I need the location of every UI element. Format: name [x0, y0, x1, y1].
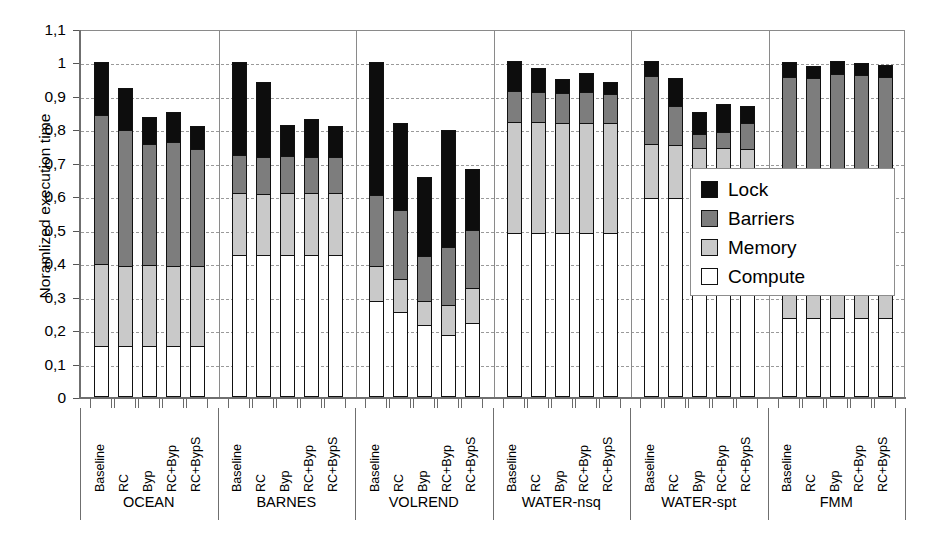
group-separator: [356, 31, 357, 397]
bar-segment-lock: [644, 61, 659, 75]
group-label: WATER-nsq: [493, 494, 631, 510]
bar-segment-compute: [142, 346, 157, 397]
x-tick-mark: [90, 399, 91, 408]
bar-segment-barriers: [716, 132, 731, 148]
bar-ocean-baseline[interactable]: [94, 62, 109, 397]
bar-water-nsq-rc-byp[interactable]: [579, 73, 594, 397]
bar-ocean-rc-byp[interactable]: [166, 112, 181, 397]
bar-segment-barriers: [531, 92, 546, 123]
x-tick-mark: [736, 399, 737, 408]
x-tick-mark: [874, 399, 875, 408]
bar-water-nsq-rc[interactable]: [531, 68, 546, 397]
bar-segment-lock: [328, 126, 343, 157]
group-separator: [494, 31, 495, 397]
bar-segment-barriers: [465, 230, 480, 288]
bar-segment-lock: [507, 61, 522, 91]
bar-segment-compute: [369, 301, 384, 397]
bar-segment-compute: [668, 198, 683, 397]
x-tick-mark: [207, 399, 208, 408]
bar-segment-compute: [166, 346, 181, 397]
x-tick-mark: [273, 399, 274, 408]
x-tick-mark: [410, 399, 411, 408]
x-tick-mark: [413, 399, 414, 408]
bar-water-spt-rc[interactable]: [668, 78, 683, 397]
bar-segment-barriers: [118, 130, 133, 266]
y-tick-label: 0,3: [20, 290, 66, 305]
bar-volrend-baseline[interactable]: [369, 62, 384, 397]
group-label: BARNES: [218, 494, 356, 510]
x-tick-label: Byp: [279, 470, 291, 492]
bar-barnes-baseline[interactable]: [232, 62, 247, 397]
bar-volrend-rc[interactable]: [393, 123, 408, 397]
bar-barnes-rc-byp[interactable]: [304, 119, 319, 397]
bar-water-nsq-rc-byps[interactable]: [603, 82, 618, 397]
bar-segment-lock: [280, 125, 295, 156]
bar-segment-lock: [555, 79, 570, 92]
x-tick-mark: [114, 399, 115, 408]
legend-swatch-barriers: [701, 210, 718, 227]
bar-volrend-rc-byp[interactable]: [441, 130, 456, 397]
bar-segment-memory: [417, 301, 432, 325]
bar-volrend-byp[interactable]: [417, 177, 432, 397]
bar-water-nsq-byp[interactable]: [555, 79, 570, 397]
bar-segment-compute: [579, 233, 594, 397]
bar-ocean-rc[interactable]: [118, 88, 133, 397]
bar-segment-lock: [782, 62, 797, 76]
bar-segment-memory: [328, 193, 343, 255]
bar-segment-barriers: [740, 123, 755, 149]
x-tick-label: Baseline: [506, 444, 518, 492]
x-tick-mark: [575, 399, 576, 408]
bar-segment-memory: [555, 123, 570, 233]
x-tick-mark: [159, 399, 160, 408]
bar-segment-compute: [531, 233, 546, 397]
bar-water-spt-baseline[interactable]: [644, 61, 659, 397]
bar-segment-memory: [190, 266, 205, 346]
x-tick-mark: [183, 399, 184, 408]
bar-segment-barriers: [507, 91, 522, 122]
bar-segment-memory: [232, 193, 247, 256]
bar-segment-lock: [118, 88, 133, 130]
bar-segment-compute: [555, 233, 570, 397]
legend-swatch-memory: [701, 239, 718, 256]
x-tick-mark: [186, 399, 187, 408]
x-tick-mark: [712, 399, 713, 408]
x-tick-label: RC+Byp: [166, 445, 178, 492]
bar-segment-lock: [830, 61, 845, 73]
legend-label: Barriers: [728, 209, 795, 228]
bar-ocean-byp[interactable]: [142, 117, 157, 397]
bar-segment-compute: [256, 255, 271, 397]
bar-segment-lock: [256, 82, 271, 157]
bar-water-nsq-baseline[interactable]: [507, 61, 522, 397]
bar-segment-compute: [878, 318, 893, 397]
x-tick-mark: [297, 399, 298, 408]
bar-segment-lock: [806, 66, 821, 78]
bar-segment-compute: [441, 335, 456, 397]
bar-barnes-byp[interactable]: [280, 125, 295, 397]
y-tick-label: 0,9: [20, 89, 66, 104]
bar-segment-barriers: [304, 157, 319, 193]
bar-segment-memory: [603, 123, 618, 232]
bar-volrend-rc-byps[interactable]: [465, 169, 480, 397]
bar-segment-lock: [692, 112, 707, 134]
bar-segment-compute: [417, 325, 432, 397]
group-box-divider: [80, 408, 81, 520]
bar-ocean-rc-byps[interactable]: [190, 126, 205, 397]
x-tick-mark: [847, 399, 848, 408]
x-tick-label: Byp: [417, 470, 429, 492]
bar-segment-memory: [280, 193, 295, 255]
group-label: VOLREND: [355, 494, 493, 510]
x-tick-label: Baseline: [231, 444, 243, 492]
x-tick-label: RC: [393, 474, 405, 492]
legend-swatch-lock: [701, 181, 718, 198]
group-box-divider: [630, 408, 631, 520]
bar-barnes-rc[interactable]: [256, 82, 271, 397]
bar-segment-barriers: [603, 94, 618, 124]
x-tick-label: RC+BypS: [190, 437, 202, 492]
bar-barnes-rc-byps[interactable]: [328, 126, 343, 397]
bar-segment-compute: [806, 318, 821, 397]
group-label: OCEAN: [80, 494, 218, 510]
x-tick-label: RC: [118, 474, 130, 492]
x-tick-mark: [111, 399, 112, 408]
x-tick-mark: [482, 399, 483, 408]
x-tick-mark: [249, 399, 250, 408]
